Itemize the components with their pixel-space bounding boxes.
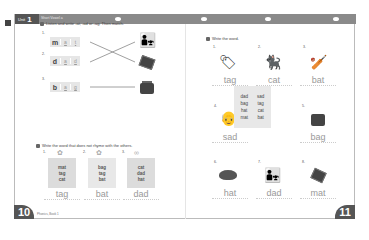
answer-field[interactable]: tag — [212, 75, 248, 86]
item-number: 3. — [303, 45, 306, 49]
gift-box-1: mat tag cat — [48, 158, 76, 188]
item-number: 7. — [258, 160, 261, 164]
dad-picture: 👨‍👧 — [262, 164, 282, 186]
answer-field[interactable]: cat — [256, 75, 292, 86]
word-bank: dad sad bag tag hat cat mat bat — [234, 86, 271, 128]
item-number: 8. — [302, 160, 305, 164]
item-number: 2. — [258, 45, 261, 49]
mat-picture — [137, 52, 157, 72]
item-number: 1. — [213, 45, 216, 49]
item-number: 5. — [302, 104, 305, 108]
footer-text: Phonics, Book 1 — [37, 212, 59, 216]
answer-field[interactable]: dad — [123, 189, 159, 200]
exercise-marker-icon — [206, 37, 210, 41]
answer-field[interactable]: sad — [212, 132, 248, 143]
answer-field[interactable]: bat — [300, 75, 336, 86]
item-number: 3. — [122, 150, 125, 154]
item-number: 6. — [214, 160, 217, 164]
gift-bow-icon: ∞ — [134, 149, 139, 156]
answer-field[interactable]: bag — [300, 132, 336, 143]
gift-bow-icon: ✿ — [96, 149, 102, 157]
gift-box-2: bag tag bat — [88, 158, 116, 188]
bat-picture: 🏏 — [308, 50, 328, 74]
gift-bow-icon: ✿ — [57, 149, 63, 157]
answer-field[interactable]: tag — [44, 189, 80, 200]
item-number: 1. — [43, 150, 46, 154]
answer-field[interactable]: hat — [212, 188, 248, 199]
answer-field[interactable]: dad — [256, 188, 292, 199]
exercise-marker-icon — [36, 144, 40, 148]
item-number: 4. — [214, 104, 217, 108]
page-number-right: 11 — [335, 205, 355, 219]
mat-picture — [308, 164, 328, 186]
exercise2-instruction: Write the word that does not rhyme with … — [36, 143, 132, 148]
tag-picture: 🏷 — [218, 50, 238, 74]
exercise3-instruction: Write the word. — [206, 36, 239, 41]
item-number: 2. — [83, 150, 86, 154]
answer-field[interactable]: bat — [84, 189, 120, 200]
hat-picture — [218, 164, 238, 186]
cat-picture: 🐈‍⬛ — [262, 50, 282, 74]
bag-picture — [308, 106, 328, 130]
gift-box-3: cat dad hat — [127, 158, 155, 188]
dad-and-child-picture: 👨‍👧 — [137, 30, 157, 50]
answer-field[interactable]: mat — [300, 188, 336, 199]
bag-picture — [137, 76, 157, 96]
